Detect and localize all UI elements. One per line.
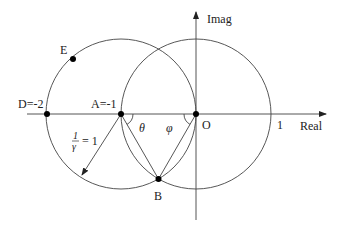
point-e-label: E <box>60 43 67 57</box>
segment-o-b <box>159 114 197 179</box>
point-a-label: A=-1 <box>91 97 116 111</box>
phi-label: φ <box>166 121 173 135</box>
phi-angle-arc <box>184 114 190 124</box>
point-o-label: O <box>202 118 211 132</box>
radius-denominator: γ <box>72 141 77 152</box>
tick-one-label: 1 <box>277 118 283 132</box>
radius-annotation: 1 γ = 1 <box>72 130 98 152</box>
point-d <box>44 111 50 117</box>
point-e <box>70 56 76 62</box>
point-b <box>156 176 162 182</box>
real-axis-label: Real <box>300 119 323 133</box>
theta-label: θ <box>139 121 145 135</box>
point-b-label: B <box>154 189 162 203</box>
point-a <box>118 111 124 117</box>
complex-plane-diagram: Imag Real 1 D=-2 A=-1 O B E θ φ 1 γ = 1 <box>0 0 342 230</box>
point-o <box>193 111 199 117</box>
imag-axis-label: Imag <box>207 12 232 26</box>
radius-rhs: = 1 <box>82 134 98 148</box>
radius-numerator: 1 <box>73 130 78 141</box>
theta-angle-arc <box>127 114 133 124</box>
point-d-label: D=-2 <box>18 97 43 111</box>
